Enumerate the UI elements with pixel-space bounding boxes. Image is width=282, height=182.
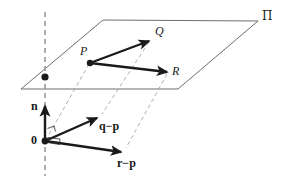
vector-qp-label: q−p bbox=[99, 120, 119, 132]
vector-pr bbox=[90, 63, 167, 72]
point-r-label: R bbox=[172, 65, 179, 77]
vector-pq bbox=[90, 41, 149, 63]
dashed-line-p-origin bbox=[47, 64, 89, 138]
vector-r-minus-p bbox=[45, 141, 121, 152]
vector-q-minus-p bbox=[45, 118, 97, 141]
point-q-label: Q bbox=[155, 25, 164, 37]
point-p-label: P bbox=[80, 45, 87, 57]
plane-parallelogram bbox=[21, 20, 258, 89]
figure-canvas bbox=[0, 0, 282, 182]
geometry-figure: Π P Q R n 0 q−p r−p bbox=[0, 0, 282, 182]
plane-axis-dot bbox=[41, 73, 48, 80]
right-angle-mark-n-qp bbox=[48, 126, 56, 132]
origin-dot bbox=[42, 138, 49, 145]
point-p-dot bbox=[87, 60, 93, 66]
normal-vector-label: n bbox=[31, 100, 38, 112]
vector-rp-label: r−p bbox=[117, 157, 136, 169]
plane-label: Π bbox=[262, 10, 272, 22]
dashed-line-r-rp bbox=[126, 74, 167, 148]
origin-label: 0 bbox=[31, 134, 37, 146]
dashed-line-q-qp bbox=[102, 42, 149, 114]
